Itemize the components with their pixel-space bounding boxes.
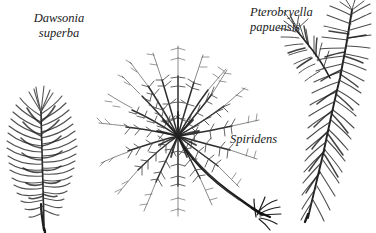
specimen-pterobryella-papuensis <box>272 0 376 222</box>
specimen-spiridens <box>80 6 285 231</box>
specimen-dawsonia-superba <box>0 78 86 233</box>
botanical-figure: Dawsonia superba Pterobryella papuensis … <box>0 0 376 233</box>
